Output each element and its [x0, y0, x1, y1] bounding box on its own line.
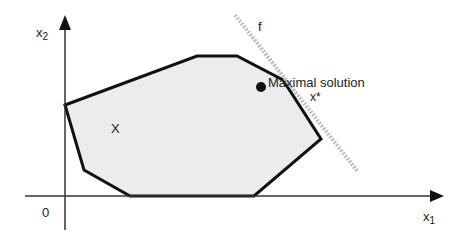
optimum-point — [256, 82, 266, 92]
x-axis-arrow-icon — [430, 190, 444, 202]
y-axis-arrow-icon — [59, 15, 71, 30]
diagram-canvas — [0, 0, 469, 241]
optimum-annotation: Maximal solution — [268, 76, 365, 89]
region-label: X — [111, 122, 120, 135]
objective-label: f — [258, 20, 262, 33]
origin-label: 0 — [42, 206, 49, 219]
x-axis-label: x1 — [423, 210, 435, 223]
optimum-point-label: x* — [310, 91, 321, 103]
y-axis-label: x2 — [36, 26, 48, 39]
